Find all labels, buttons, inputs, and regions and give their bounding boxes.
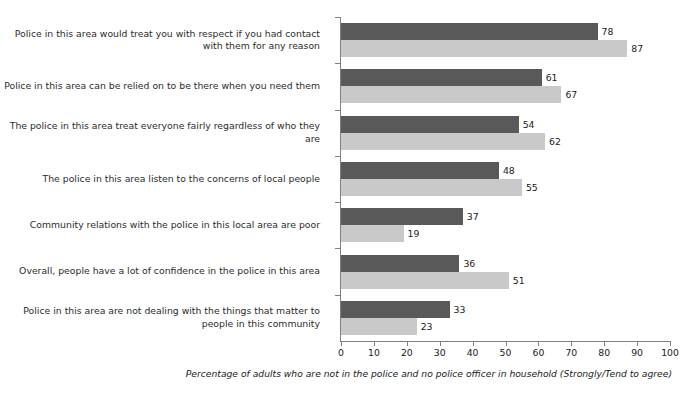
bar-series-2 bbox=[341, 318, 417, 335]
bar-value-label: 67 bbox=[561, 86, 577, 103]
category-label-text: Police in this area can be relied on to … bbox=[4, 80, 320, 93]
x-axis-tick-label: 20 bbox=[401, 347, 413, 358]
bar-value-label: 36 bbox=[459, 255, 475, 272]
category-label: Overall, people have a lot of confidence… bbox=[0, 248, 330, 294]
category-axis-labels: Police in this area would treat you with… bbox=[0, 17, 330, 341]
y-axis-tick bbox=[335, 110, 341, 111]
x-axis-tick bbox=[341, 341, 342, 346]
bar-series-1 bbox=[341, 255, 459, 272]
bar-value-label: 55 bbox=[522, 179, 538, 196]
x-axis-tick bbox=[440, 341, 441, 346]
category-label-text: Community relations with the police in t… bbox=[30, 219, 320, 232]
y-axis-tick bbox=[335, 156, 341, 157]
bar-series-2 bbox=[341, 86, 561, 103]
bar-series-2 bbox=[341, 133, 545, 150]
category-label: Police in this area are not dealing with… bbox=[0, 295, 330, 341]
bar-value-label: 54 bbox=[519, 116, 535, 133]
x-axis-tick-label: 30 bbox=[434, 347, 446, 358]
bar-series-1 bbox=[341, 23, 598, 40]
category-label-text: Police in this area would treat you with… bbox=[0, 28, 320, 53]
bar-series-1 bbox=[341, 69, 542, 86]
category-label: Police in this area can be relied on to … bbox=[0, 63, 330, 109]
x-axis-tick-label: 90 bbox=[631, 347, 643, 358]
bar-series-2 bbox=[341, 179, 522, 196]
x-axis-tick bbox=[571, 341, 572, 346]
y-axis-tick bbox=[335, 202, 341, 203]
bar-value-label: 78 bbox=[598, 23, 614, 40]
x-axis-tick-label: 60 bbox=[532, 347, 544, 358]
x-axis-tick-label: 70 bbox=[565, 347, 577, 358]
y-axis-tick bbox=[335, 295, 341, 296]
bar-value-label: 51 bbox=[509, 272, 525, 289]
x-axis-tick-label: 50 bbox=[500, 347, 512, 358]
x-axis-tick bbox=[407, 341, 408, 346]
bar-value-label: 48 bbox=[499, 162, 515, 179]
bar-chart: Police in this area would treat you with… bbox=[0, 0, 682, 394]
y-axis-tick bbox=[335, 17, 341, 18]
bar-value-label: 62 bbox=[545, 133, 561, 150]
x-axis-tick bbox=[637, 341, 638, 346]
x-axis-tick bbox=[506, 341, 507, 346]
category-label-text: The police in this area treat everyone f… bbox=[0, 120, 320, 145]
category-label-text: Overall, people have a lot of confidence… bbox=[19, 265, 320, 278]
x-axis-tick bbox=[538, 341, 539, 346]
x-axis-tick-label: 10 bbox=[368, 347, 380, 358]
category-label-text: Police in this area are not dealing with… bbox=[0, 305, 320, 330]
bar-series-2 bbox=[341, 272, 509, 289]
category-label: Police in this area would treat you with… bbox=[0, 17, 330, 63]
category-label: The police in this area treat everyone f… bbox=[0, 110, 330, 156]
bar-value-label: 19 bbox=[404, 225, 420, 242]
plot-area: 7887616754624855371936513323 bbox=[341, 17, 670, 341]
category-label-text: The police in this area listen to the co… bbox=[43, 173, 320, 186]
bar-series-1 bbox=[341, 162, 499, 179]
bar-value-label: 23 bbox=[417, 318, 433, 335]
bar-series-1 bbox=[341, 208, 463, 225]
chart-footnote: Percentage of adults who are not in the … bbox=[0, 368, 678, 379]
x-axis-tick-label: 0 bbox=[338, 347, 344, 358]
x-axis-tick-label: 80 bbox=[598, 347, 610, 358]
y-axis-tick bbox=[335, 248, 341, 249]
bar-value-label: 37 bbox=[463, 208, 479, 225]
bar-value-label: 61 bbox=[542, 69, 558, 86]
bar-value-label: 33 bbox=[450, 301, 466, 318]
x-axis-tick-label: 40 bbox=[467, 347, 479, 358]
x-axis-tick bbox=[670, 341, 671, 346]
bar-series-2 bbox=[341, 40, 627, 57]
y-axis-tick bbox=[335, 63, 341, 64]
category-label: The police in this area listen to the co… bbox=[0, 156, 330, 202]
bar-series-2 bbox=[341, 225, 404, 242]
x-axis-tick bbox=[374, 341, 375, 346]
category-label: Community relations with the police in t… bbox=[0, 202, 330, 248]
bar-series-1 bbox=[341, 116, 519, 133]
x-axis-tick bbox=[473, 341, 474, 346]
bar-series-1 bbox=[341, 301, 450, 318]
x-axis-tick bbox=[604, 341, 605, 346]
bar-value-label: 87 bbox=[627, 40, 643, 57]
x-axis-tick-label: 100 bbox=[661, 347, 679, 358]
